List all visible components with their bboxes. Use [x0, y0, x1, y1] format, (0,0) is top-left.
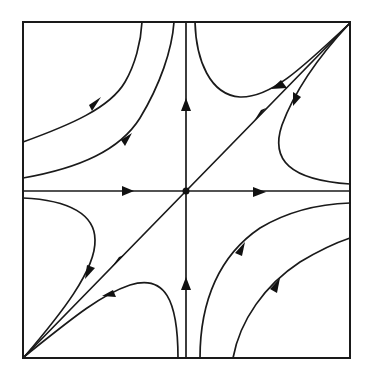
- trajectory-upper-right-lower: [279, 24, 350, 184]
- arrow-down-left-icon: [85, 265, 95, 279]
- arrow-up-right-icon: [89, 97, 101, 111]
- trajectory-upper-left-outer: [23, 22, 142, 142]
- arrow-right-icon: [122, 186, 134, 196]
- trajectory-upper-right-upper: [195, 22, 349, 97]
- arrow-down-left-icon: [254, 108, 266, 121]
- arrow-down-left-icon: [271, 80, 287, 89]
- trajectory-lower-right-inner: [200, 203, 350, 358]
- saddle-point: [183, 188, 190, 195]
- arrow-up-icon: [181, 277, 191, 290]
- arrow-up-icon: [181, 98, 191, 111]
- phase-portrait-diagram: [0, 0, 371, 378]
- trajectory-lower-left-lower: [25, 283, 178, 358]
- arrow-right-icon: [253, 187, 266, 197]
- trajectory-lower-left-upper: [23, 198, 95, 356]
- trajectory-lower-right-outer: [233, 238, 350, 358]
